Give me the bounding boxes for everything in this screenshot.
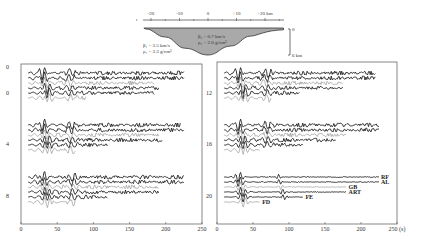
trace-label-al: AL <box>381 179 389 185</box>
basin-x-tick-label: +10 <box>233 11 241 16</box>
trace-label-art: ART <box>349 189 361 195</box>
left-y-label-0: 0 <box>6 64 9 70</box>
seismogram-trace <box>28 172 184 182</box>
trace-label-fd: FD <box>262 199 271 205</box>
seismogram-trace <box>28 93 85 101</box>
depth-scale-bottom-label: 6 km <box>292 53 302 58</box>
x-tick-label: 200 <box>357 226 366 232</box>
x-tick-label: 50 <box>54 226 60 232</box>
seismogram-trace <box>224 146 259 154</box>
x-tick-label: 0 <box>216 226 219 232</box>
depth-scale-top-label: 0 <box>292 27 295 32</box>
basin-x-tick-label: -10 <box>176 11 183 16</box>
seismogram-trace <box>224 187 346 196</box>
seismogram-trace <box>224 172 379 182</box>
right-y-label-2: 20 <box>206 193 212 199</box>
outer-beta-label: β₁ = 3.5 km/s <box>143 43 170 48</box>
seismogram-trace <box>28 142 107 149</box>
x-tick-label: 100 <box>89 226 98 232</box>
left-y-label-3: 8 <box>6 193 9 199</box>
figure: -20-100+10+20 km β₁ = 3.5 km/s ρ₁ = 3.3 … <box>0 0 425 239</box>
basin-cross-section: -20-100+10+20 km β₁ = 3.5 km/s ρ₁ = 3.3 … <box>137 11 303 58</box>
seismogram-trace <box>28 178 184 187</box>
x-tick-label: 150 <box>321 226 330 232</box>
left-y-label-1: 0 <box>6 90 9 96</box>
basin-x-tick-label: 0 <box>207 11 210 16</box>
x-tick-label: 250 <box>198 226 207 232</box>
x-tick-label: 50 <box>250 226 256 232</box>
x-tick-label: 250 (s) <box>389 226 406 233</box>
x-tick-label: 0 <box>20 226 23 232</box>
x-tick-label: 150 <box>125 226 134 232</box>
x-tick-label: 100 <box>285 226 294 232</box>
basin-x-tick-label: -20 <box>148 11 155 16</box>
left-y-label-2: 4 <box>6 141 9 147</box>
outer-rho-label: ρ₁ = 3.3 g/cm³ <box>143 49 172 54</box>
right-y-label-1: 16 <box>206 141 212 147</box>
seismogram-trace <box>224 124 379 135</box>
trace-label-fe: FE <box>305 194 313 200</box>
right-seismogram-panel: 050100150200250 (s) RFALGBARTFEFD 12 16 … <box>206 62 405 233</box>
basin-beta-label: β₂ = 0.7 km/s <box>198 34 225 39</box>
basin-x-tick-label: +20 km <box>257 11 273 16</box>
right-y-label-0: 12 <box>206 90 212 96</box>
left-seismogram-panel: 050100150200250 0 0 4 8 <box>6 64 207 232</box>
basin-rho-label: ρ₂ = 2.0 g/cm³ <box>198 40 227 45</box>
x-tick-label: 200 <box>161 226 170 232</box>
